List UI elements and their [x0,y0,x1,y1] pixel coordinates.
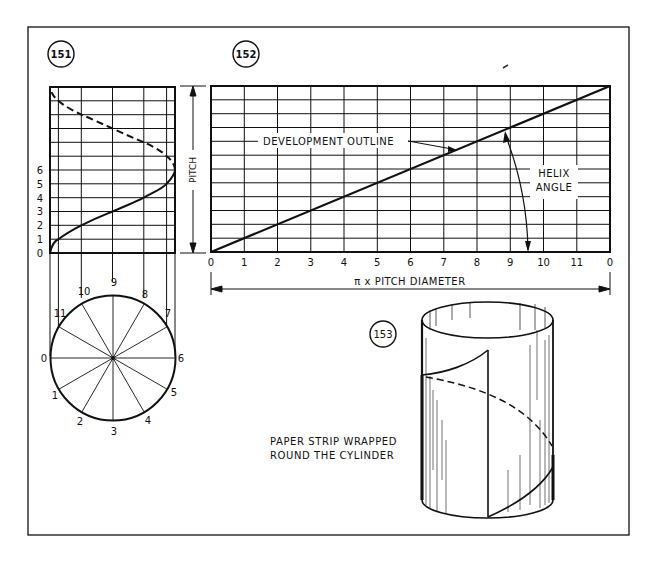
x-label: 6 [407,257,413,268]
height-labels: 0 1 2 3 4 5 6 [37,165,43,259]
cylinder [422,302,553,518]
helix-angle-arc [505,134,528,250]
x-label: 4 [341,257,347,268]
height-label: 4 [37,193,43,204]
height-label: 2 [37,220,43,231]
figure-number-152: 152 [236,49,257,60]
circle-label: 5 [171,387,177,398]
x-label: 0 [208,257,214,268]
development-x-labels: 0 1 2 3 4 5 6 7 8 9 10 11 0 [208,257,613,268]
figure-152: 152 PITCH [180,41,613,295]
circle-label: 11 [54,308,67,319]
caption-line2: ROUND THE CYLINDER [270,450,394,461]
x-label: 3 [308,257,314,268]
figure-153: 153 PAPER STRIP WRAPPED ROUND THE CYLIND… [270,302,553,518]
x-label: 1 [241,257,247,268]
height-label: 1 [37,234,43,245]
grid-151-projection-lines [50,87,175,356]
development-outline-label: DEVELOPMENT OUTLINE [263,136,394,147]
x-label: 10 [537,257,550,268]
helix-angle-label-line2: ANGLE [536,182,572,193]
pitch-label: PITCH [188,157,198,183]
figure-number-151: 151 [51,49,72,60]
figure-151: 151 [37,41,184,437]
pitch-diameter-label: π x PITCH DIAMETER [354,276,465,287]
circle-label: 7 [165,308,171,319]
circle-label: 0 [41,353,47,364]
x-label: 7 [441,257,447,268]
height-label: 5 [37,179,43,190]
figure-number-153: 153 [373,329,392,340]
x-label: 0 [607,257,613,268]
plan-circle [51,296,176,421]
circle-label: 6 [178,353,184,364]
x-label: 2 [274,257,280,268]
height-label: 3 [37,206,43,217]
circle-label: 2 [77,416,83,427]
height-label: 6 [37,165,43,176]
helix-back-dashed [426,377,552,446]
stray-mark [503,65,508,68]
helix-angle-label-line1: HELIX [538,168,570,179]
caption-line1: PAPER STRIP WRAPPED [270,436,397,447]
height-label: 0 [37,248,43,259]
circle-label: 3 [111,426,117,437]
circle-label: 4 [145,415,151,426]
circle-label: 10 [78,286,91,297]
x-label: 5 [374,257,380,268]
x-label: 9 [507,257,513,268]
helix-development-drawing: 151 [0,0,658,563]
x-label: 8 [474,257,480,268]
circle-label: 8 [142,289,148,300]
circle-label: 1 [52,390,58,401]
circle-label: 9 [111,277,117,288]
x-label: 11 [570,257,583,268]
paper-top-edge [422,350,488,375]
